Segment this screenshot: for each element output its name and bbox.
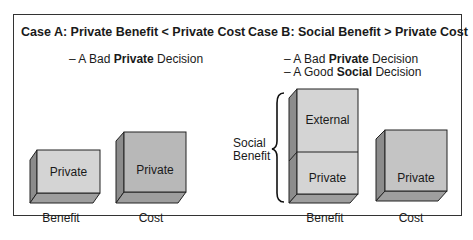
case-b-cost-box: Private [385,163,447,193]
case-b-cost-label: Cost [391,211,431,225]
case-b-cost-box-3d [0,0,473,240]
